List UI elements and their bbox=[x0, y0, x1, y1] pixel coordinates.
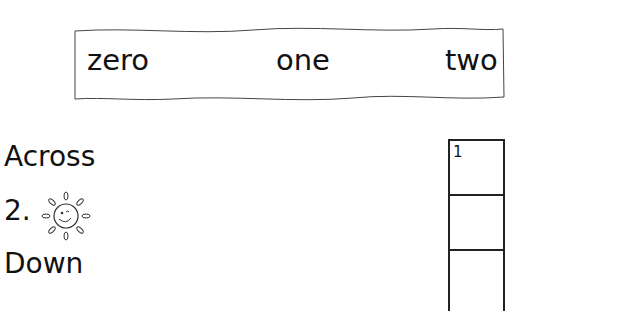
grid-cell[interactable] bbox=[448, 194, 505, 249]
across-heading: Across bbox=[4, 140, 95, 173]
grid-cell[interactable]: 1 bbox=[448, 139, 505, 194]
word-bank-item: zero bbox=[87, 43, 149, 77]
word-bank-item: one bbox=[276, 43, 330, 77]
cell-number: 1 bbox=[453, 143, 463, 161]
grid-cell[interactable] bbox=[448, 249, 505, 311]
across-clue-number: 2. bbox=[4, 194, 31, 227]
sun-icon bbox=[40, 190, 92, 242]
word-bank: zero one two bbox=[73, 25, 505, 103]
crossword-grid: 1 bbox=[448, 139, 505, 311]
down-heading: Down bbox=[4, 247, 83, 280]
word-bank-item: two bbox=[445, 43, 498, 77]
